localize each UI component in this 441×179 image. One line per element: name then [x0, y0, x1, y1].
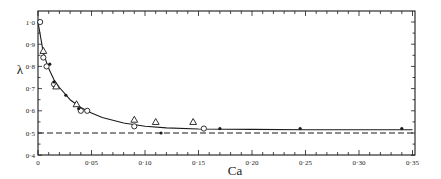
data-points: [38, 19, 404, 134]
filled-circle-marker: [400, 127, 403, 130]
fitted-curve: [38, 22, 413, 130]
y-tick-label: 1·0: [26, 19, 36, 27]
y-axis-ticks: 0·40·50·60·70·80·91·0: [26, 19, 415, 160]
x-tick-label: 0·10: [139, 159, 152, 167]
open-triangle-marker: [131, 116, 138, 122]
filled-circle-marker: [77, 107, 80, 110]
x-tick-label: 0: [36, 159, 40, 167]
filled-circle-marker: [52, 80, 55, 83]
filled-circle-marker: [48, 63, 51, 66]
open-circle-marker: [85, 108, 90, 113]
y-tick-label: 0·6: [26, 107, 36, 115]
y-tick-label: 0·9: [26, 41, 36, 49]
y-tick-label: 0·5: [26, 130, 36, 138]
x-axis-label: Ca: [228, 163, 243, 178]
open-triangle-marker: [40, 47, 47, 53]
chart: 00·050·100·150·200·250·300·35 0·40·50·60…: [0, 0, 441, 179]
y-tick-label: 0·8: [26, 63, 36, 71]
x-tick-label: 0·30: [353, 159, 366, 167]
filled-circle-marker: [159, 131, 162, 134]
x-tick-label: 0·05: [85, 159, 98, 167]
open-circle-marker: [38, 19, 43, 24]
open-circle-marker: [41, 55, 46, 60]
filled-circle-marker: [218, 127, 221, 130]
y-tick-label: 0·7: [26, 85, 36, 93]
x-tick-label: 0·35: [406, 159, 419, 167]
open-circle-marker: [132, 124, 137, 129]
open-circle-marker: [201, 126, 206, 131]
open-triangle-marker: [73, 101, 80, 107]
filled-circle-marker: [299, 127, 302, 130]
x-tick-label: 0·15: [192, 159, 205, 167]
open-triangle-marker: [152, 119, 159, 125]
theory-curve: [38, 22, 413, 130]
x-tick-label: 0·25: [299, 159, 312, 167]
x-axis-ticks: 00·050·100·150·200·250·300·35: [36, 11, 419, 167]
filled-circle-marker: [64, 94, 67, 97]
y-tick-label: 0·4: [26, 152, 36, 160]
y-axis-label: λ: [17, 62, 24, 77]
open-triangle-marker: [190, 119, 197, 125]
x-tick-label: 0·20: [246, 159, 259, 167]
